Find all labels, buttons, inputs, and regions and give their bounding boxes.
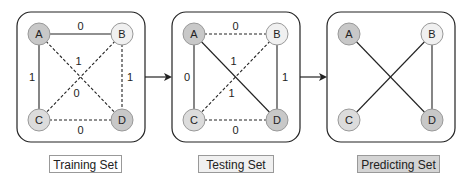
node-D: D: [266, 109, 288, 131]
edge-weight-CD: 0: [232, 124, 238, 136]
predicting-panel: ABCD: [327, 12, 455, 142]
node-B: B: [266, 23, 288, 45]
node-B: B: [111, 23, 133, 45]
edge-weight-AB: 0: [77, 20, 83, 32]
training-set-label: Training Set: [49, 155, 122, 173]
svg-text:A: A: [35, 28, 43, 40]
node-D: D: [111, 109, 133, 131]
svg-text:D: D: [428, 114, 436, 126]
svg-text:B: B: [428, 28, 435, 40]
svg-text:C: C: [35, 114, 43, 126]
edge-weight-AC: 1: [29, 71, 35, 83]
edge-weight-BC: 0: [73, 87, 79, 99]
node-B: B: [421, 23, 443, 45]
edge-weight-BD: 1: [282, 71, 288, 83]
node-C: C: [183, 109, 205, 131]
svg-text:B: B: [118, 28, 125, 40]
edge-weight-AC: 0: [184, 71, 190, 83]
node-A: A: [338, 23, 360, 45]
edge-weight-BD: 1: [127, 71, 133, 83]
svg-text:D: D: [273, 114, 281, 126]
node-C: C: [338, 109, 360, 131]
edge-weight-AB: 0: [232, 20, 238, 32]
edge-weight-AD: 1: [75, 55, 81, 67]
edge-weight-CD: 0: [77, 124, 83, 136]
svg-text:D: D: [118, 114, 126, 126]
testing-panel: 001110ABCD: [172, 12, 300, 142]
edge-weight-BC: 1: [228, 87, 234, 99]
node-C: C: [28, 109, 50, 131]
svg-text:A: A: [190, 28, 198, 40]
svg-text:C: C: [345, 114, 353, 126]
svg-text:C: C: [190, 114, 198, 126]
flow-arrow-1: [145, 73, 172, 81]
edge-weight-AD: 1: [230, 55, 236, 67]
node-A: A: [28, 23, 50, 45]
flow-arrow-2: [300, 73, 327, 81]
svg-text:A: A: [345, 28, 353, 40]
node-D: D: [421, 109, 443, 131]
training-panel: 011010ABCD: [17, 12, 145, 142]
predicting-set-label: Predicting Set: [357, 155, 440, 173]
svg-text:B: B: [273, 28, 280, 40]
node-A: A: [183, 23, 205, 45]
testing-set-label: Testing Set: [198, 155, 274, 173]
